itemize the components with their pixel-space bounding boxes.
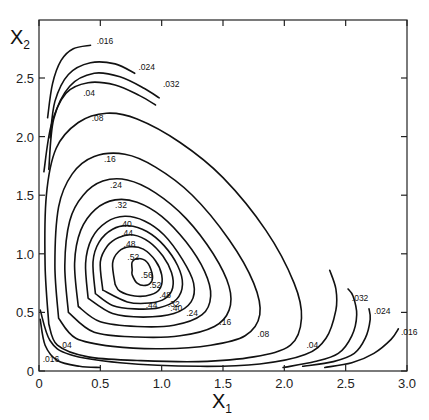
y-axis-label: X2: [10, 26, 30, 52]
contour-label-p024-0: .024: [138, 62, 155, 72]
y-tick-label-1: 0.5: [16, 305, 34, 320]
contour-label-p08-0: .08: [92, 113, 104, 123]
contour-labels-layer: .016.016.016.024.024.032.032.04.04.04.08…: [43, 36, 418, 364]
contour-label-p024-1: .024: [374, 306, 391, 316]
contour-label-p24-1: .24: [186, 308, 198, 318]
x-tick-label-4: 2.0: [275, 376, 293, 391]
y-tick-label-3: 1.5: [16, 188, 34, 203]
x-tick-label-5: 2.5: [337, 376, 355, 391]
x-axis-label: X1: [212, 390, 232, 416]
contour-label-p52-0: .52: [127, 252, 139, 262]
contour-label-p44-1: .44: [146, 300, 158, 310]
contour-line-p032-1: [283, 289, 357, 368]
y-tick-label-4: 2.0: [16, 130, 34, 145]
contour-line-p24-0: [65, 179, 231, 338]
contour-label-p44-0: .44: [121, 228, 133, 238]
x-tick-label-1: 0.5: [91, 376, 109, 391]
contour-label-p48-1: .48: [159, 290, 171, 300]
contour-label-p016-0: .016: [97, 36, 114, 46]
y-tick-label-2: 1.0: [16, 247, 34, 262]
contour-label-p032-0: .032: [163, 79, 180, 89]
contour-label-p52-1: .52: [149, 280, 161, 290]
contour-label-p016-1: .016: [43, 354, 60, 364]
contour-label-p04-0: .04: [83, 88, 95, 98]
contour-label-p16-1: .16: [219, 317, 231, 327]
y-tick-label-5: 2.5: [16, 71, 34, 86]
contour-label-p16-0: .16: [104, 154, 116, 164]
contour-line-p024-1: [303, 309, 371, 366]
contour-label-p032-1: .032: [352, 293, 369, 303]
contour-line-p08-0: [45, 113, 302, 362]
contour-label-p40-1: .40: [170, 303, 182, 313]
contour-label-p32-0: .32: [115, 200, 127, 210]
y-tick-label-0: 0: [27, 364, 34, 379]
contour-label-p04-1: .04: [60, 340, 72, 350]
contour-line-p04-1: [40, 270, 337, 366]
x-tick-label-0: 0: [35, 376, 42, 391]
x-tick-label-6: 3.0: [398, 376, 416, 391]
contour-label-p48-0: .48: [124, 239, 136, 249]
contour-label-p016-2: .016: [401, 327, 418, 337]
contour-label-p04-2: .04: [306, 340, 318, 350]
contour-label-p24-0: .24: [110, 180, 122, 190]
x-tick-label-3: 1.5: [214, 376, 232, 391]
contour-chart: 00.51.01.52.02.53.000.51.01.52.02.5 .016…: [0, 0, 429, 420]
contour-label-p56-0: .56: [141, 270, 153, 280]
contour-label-p08-1: .08: [257, 329, 269, 339]
x-tick-label-2: 1.0: [153, 376, 171, 391]
